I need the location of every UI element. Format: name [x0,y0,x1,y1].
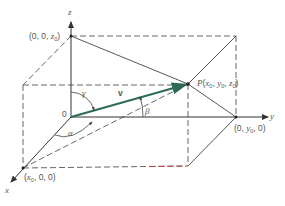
origin-label: 0 [62,109,67,119]
x-axis-label: x [4,185,9,195]
top-diagonal-corner-to-p [188,36,236,84]
vector-v-label: v [118,88,123,98]
y-axis-label: y [269,111,274,121]
direction-angles-diagram: z y x 0 (0, 0, z0) P(x0, y0, z0) (0, y0,… [0,0,285,206]
point-p [186,82,190,86]
axes [11,22,268,182]
box-solid-edges [71,36,236,166]
beta-label: β [144,106,150,116]
alpha-arc [55,122,92,137]
box-top-left-edge [23,36,71,85]
vector-v [71,85,186,118]
point-y0 [235,116,238,119]
y-intercept-label: (0, y0, 0) [234,123,266,134]
beta-arc [140,97,143,117]
z-intercept-label: (0, 0, z0) [29,31,60,42]
alpha-label: α [68,128,73,138]
gamma-label: γ [82,88,86,98]
projection-x0-to-p [23,84,188,168]
point-x0 [22,167,25,170]
point-z0 [70,35,73,38]
box-dashed-edges [23,36,236,168]
bottom-right-edge [188,117,236,166]
point-p-label: P(x0, y0, z0) [196,78,239,89]
top-diagonal-z0-to-p [71,36,188,84]
x-intercept-label: (x0, 0, 0) [24,172,56,183]
z-axis-label: z [67,7,72,17]
points [22,35,238,170]
